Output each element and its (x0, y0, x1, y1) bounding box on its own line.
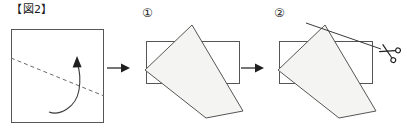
scissors-icon (377, 41, 401, 63)
figure-container: 【図2】 ① ② (0, 0, 407, 134)
scissors-handle-upper (390, 57, 396, 63)
scissors-blade-lower (379, 44, 395, 57)
panel-step-2-drawing (0, 0, 407, 134)
scissors-handle-lower (395, 47, 401, 53)
